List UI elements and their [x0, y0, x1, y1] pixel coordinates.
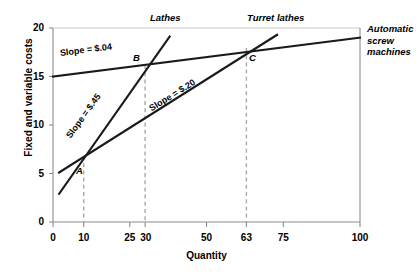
series-label-turret-lathes: Turret lathes: [247, 12, 304, 24]
x-tick-label-75: 75: [268, 232, 298, 243]
y-tick-label-5: 5: [18, 168, 44, 179]
y-axis-title: Fixed and variable costs: [23, 23, 34, 173]
series-label-automatic-line3: machines: [367, 46, 411, 57]
y-axis-ticks: [49, 28, 53, 222]
point-label-a: A: [76, 165, 83, 176]
x-axis-ticks: [53, 222, 360, 227]
y-tick-label-0: 0: [18, 216, 44, 227]
point-label-c: C: [249, 52, 256, 63]
series-label-automatic-screw-machines: Automatic screw machines: [367, 23, 413, 58]
x-tick-label-100: 100: [345, 232, 375, 243]
x-tick-label-10: 10: [69, 232, 99, 243]
x-tick-label-30: 30: [131, 232, 161, 243]
chart-figure: Fixed and variable costs Quantity 0 5 10…: [0, 0, 416, 274]
series-label-lathes: Lathes: [150, 12, 181, 24]
series-label-automatic-line1: Automatic: [367, 23, 413, 34]
series-label-automatic-line2: screw: [367, 35, 394, 46]
y-tick-label-20: 20: [18, 22, 44, 33]
x-tick-label-63: 63: [231, 232, 261, 243]
x-axis-title: Quantity: [53, 250, 360, 261]
y-tick-label-15: 15: [18, 71, 44, 82]
droplines: [84, 48, 247, 222]
x-tick-label-0: 0: [38, 232, 68, 243]
y-tick-label-10: 10: [18, 119, 44, 130]
point-label-b: B: [133, 52, 140, 63]
x-tick-label-50: 50: [192, 232, 222, 243]
